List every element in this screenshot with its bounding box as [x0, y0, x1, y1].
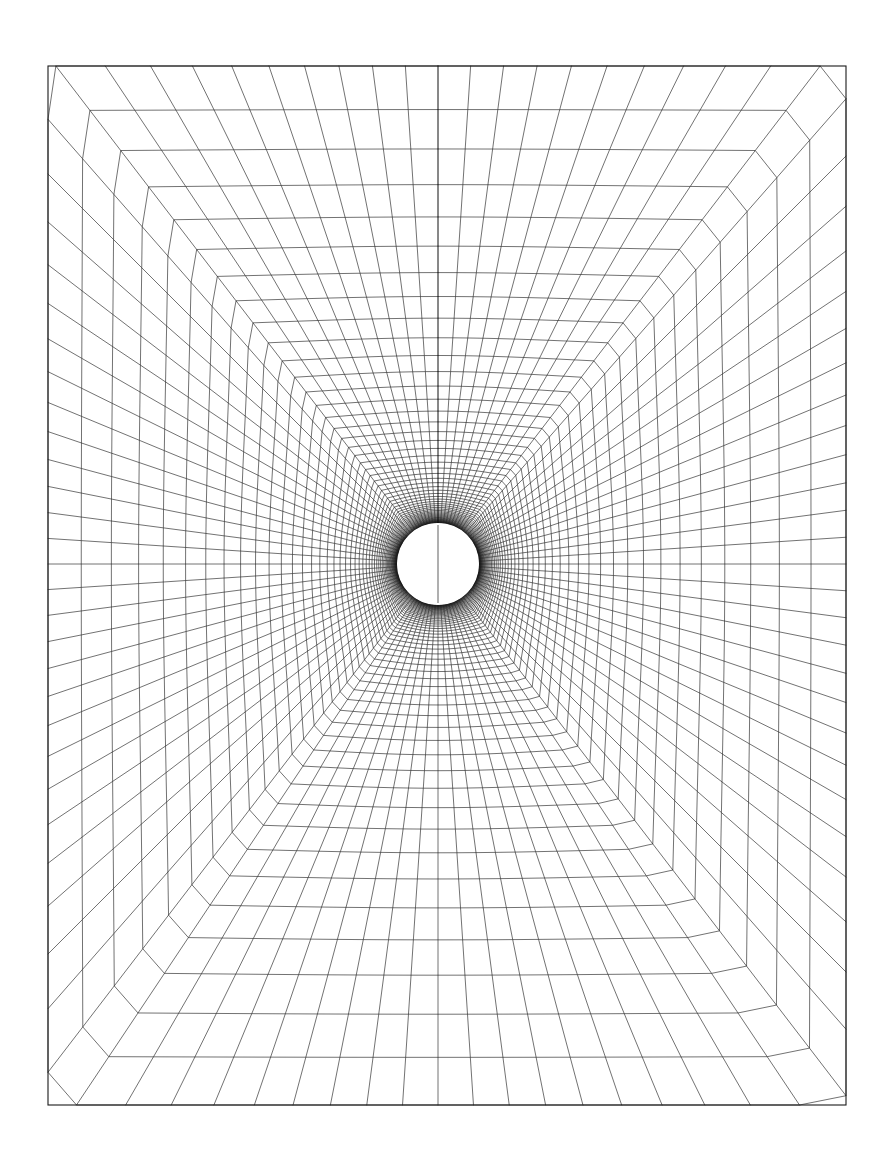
computational-mesh-figure: [0, 0, 884, 1168]
figure-root: [0, 0, 884, 1168]
